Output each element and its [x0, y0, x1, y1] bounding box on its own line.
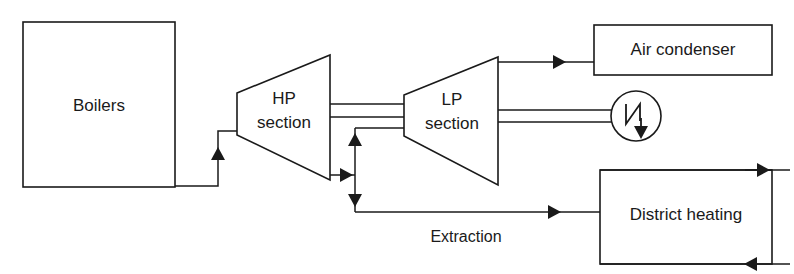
diagram-canvas: Boilers HP section Extr: [0, 0, 794, 274]
generator-circle: [611, 91, 661, 141]
boiler-to-hp-line: [175, 131, 237, 186]
hp-section-label-line1: HP: [272, 89, 296, 108]
district-heating-label: District heating: [630, 205, 742, 224]
header-down-arrow: [348, 194, 362, 207]
hp-section-label-line2: section: [257, 113, 311, 132]
lp-to-air-condenser-arrow: [553, 55, 566, 69]
boiler-to-hp-arrow: [211, 147, 225, 160]
air-condenser-label: Air condenser: [631, 40, 736, 59]
extraction-to-district-heating-arrow: [548, 205, 561, 219]
lp-section-label-line1: LP: [442, 90, 463, 109]
schematic-svg: Boilers HP section Extr: [0, 0, 794, 274]
extraction-label: Extraction: [430, 228, 501, 245]
boilers-label: Boilers: [73, 96, 125, 115]
lp-section-label-line2: section: [425, 114, 479, 133]
header-up-arrow: [348, 133, 362, 146]
hp-exhaust-arrow: [340, 168, 353, 182]
